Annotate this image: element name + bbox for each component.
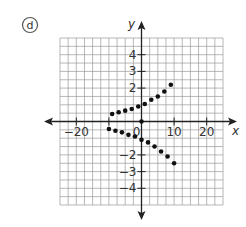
x-tick-label: 20	[199, 125, 214, 139]
y-tick-label: 3	[129, 64, 137, 78]
data-point	[110, 112, 115, 117]
data-point	[139, 119, 144, 124]
data-point	[149, 97, 154, 102]
y-axis-label: y	[127, 17, 136, 31]
data-point	[126, 133, 131, 138]
chart-figure: d −2001020−4−3−2234 x y	[0, 0, 246, 227]
y-tick-label: −2	[119, 148, 137, 162]
data-point	[129, 107, 134, 112]
data-point	[120, 130, 125, 135]
data-point	[162, 89, 167, 94]
data-point	[156, 94, 161, 99]
x-tick-label: −20	[64, 125, 89, 139]
x-axis-label: x	[231, 124, 240, 138]
data-point	[136, 104, 141, 109]
problem-label: d	[27, 19, 34, 32]
data-point	[152, 144, 157, 149]
data-point	[123, 108, 128, 113]
data-point	[139, 138, 144, 143]
y-tick-label: −4	[119, 181, 137, 195]
x-tick-label: 10	[166, 125, 181, 139]
problem-badge: d	[23, 18, 38, 33]
data-point	[169, 82, 174, 87]
data-point	[133, 134, 138, 139]
y-tick-label: 4	[129, 48, 137, 62]
y-tick-label: 2	[129, 81, 137, 95]
data-point	[142, 102, 147, 107]
data-point	[116, 110, 121, 115]
coordinate-plane: d −2001020−4−3−2234 x y	[0, 0, 246, 227]
data-point	[165, 154, 170, 159]
data-point	[159, 149, 164, 154]
y-tick-label: −3	[119, 165, 137, 179]
data-point	[172, 161, 177, 166]
data-point	[113, 128, 118, 133]
data-point	[146, 140, 151, 145]
data-point	[107, 127, 112, 132]
